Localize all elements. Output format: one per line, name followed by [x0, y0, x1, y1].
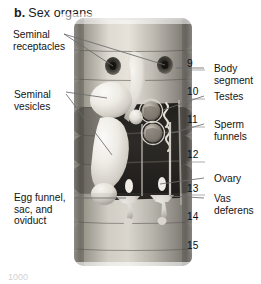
seminal-receptacle-left [105, 57, 121, 75]
segment-number-10: 10 [187, 86, 198, 97]
label-sperm-funnels: Sperm funnels [214, 119, 247, 142]
segment-number-13: 13 [187, 183, 198, 194]
edge-fade-right [186, 14, 206, 270]
segment-number-14: 14 [187, 211, 198, 222]
worm-body [72, 18, 194, 271]
ovary-left [125, 179, 133, 193]
segment-number-15: 15 [187, 240, 198, 251]
segment-number-12: 12 [187, 149, 198, 160]
label-testes: Testes [214, 91, 243, 103]
label-seminal-vesicles: Seminal vesicles [14, 89, 51, 112]
edge-fade-top [72, 14, 194, 24]
segment-number-9: 9 [187, 58, 193, 69]
ovary-right [158, 177, 166, 191]
testis-upper [140, 100, 163, 123]
edge-fade-left [60, 14, 80, 270]
figure-panel-sex-organs: b.Sex organs [0, 0, 261, 284]
label-seminal-receptacles: Seminal receptacles [13, 29, 65, 52]
seminal-receptacle-right [157, 56, 173, 74]
label-egg-funnel-sac-oviduct: Egg funnel, sac, and oviduct [14, 192, 66, 227]
segment-number-11: 11 [187, 114, 198, 125]
edge-fade-bottom [72, 262, 194, 274]
cropped-caption-text: 1000 [8, 272, 78, 280]
testis-lower [142, 122, 165, 145]
label-vas-deferens: Vas deferens [214, 193, 254, 216]
label-body-segment: Body segment [214, 63, 253, 86]
seminal-vesicle-upper [90, 82, 132, 118]
label-ovary: Ovary [214, 173, 241, 185]
